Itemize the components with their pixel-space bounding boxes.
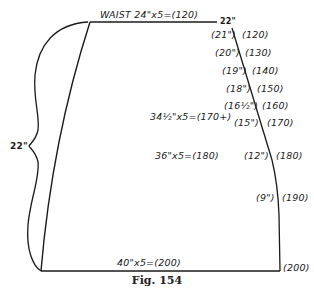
side-mark-value: (120) — [242, 29, 269, 40]
side-mark-inches: (15") — [234, 117, 259, 128]
skirt-pattern-diagram: WAIST 24"x5=(120) 22" (21") (120) (20") … — [0, 0, 314, 291]
side-mark-inches: (16½") — [224, 100, 258, 111]
side-mark-value: (130) — [245, 47, 272, 58]
height-label: 22" — [10, 141, 28, 152]
side-mark-value: (170) — [267, 117, 294, 128]
hip-measure-label: 34½"x5=(170+) — [150, 111, 231, 122]
side-mark-value: (140) — [252, 65, 279, 76]
side-mark-value: (180) — [276, 150, 303, 161]
waist-measure-label: WAIST 24"x5=(120) — [100, 9, 198, 20]
hem-corner-label: (200) — [283, 262, 310, 273]
hem-measure-label: 40"x5=(200) — [117, 257, 181, 268]
side-mark-value: (160) — [262, 100, 289, 111]
left-seam-line — [41, 22, 90, 271]
side-mark-inches: (21") — [211, 29, 236, 40]
waist-corner-label: 22" — [220, 16, 236, 27]
mid-measure-label: 36"x5=(180) — [155, 150, 219, 161]
side-mark-inches: (9") — [256, 192, 275, 203]
side-mark-inches: (12") — [244, 150, 269, 161]
side-mark-inches: (18") — [226, 83, 251, 94]
pattern-outline — [0, 0, 314, 291]
side-mark-inches: (20") — [215, 47, 240, 58]
side-mark-value: (190) — [282, 192, 309, 203]
figure-caption: Fig. 154 — [0, 274, 314, 287]
side-mark-value: (150) — [257, 83, 284, 94]
side-mark-inches: (19") — [222, 65, 247, 76]
